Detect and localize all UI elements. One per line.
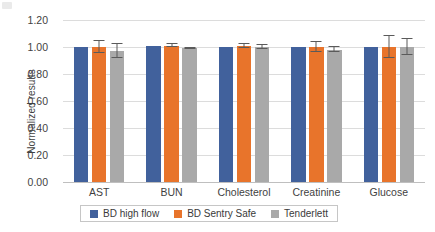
legend-label: BD Sentry Safe [187,208,256,219]
y-axis-tick-label: 0.00 [0,176,48,188]
y-axis-tick-label: 1.00 [0,41,48,53]
bar[interactable] [382,20,397,182]
legend-label: Tenderlett [284,208,328,219]
x-axis-tick-label: Glucose [353,186,425,198]
error-bar-cap [166,43,177,44]
bar-rect [219,47,234,182]
error-bar-cap [166,46,177,47]
error-bar-cap [238,47,249,48]
bar-group: Glucose [353,20,425,182]
bar[interactable] [309,20,324,182]
error-bar-cap [112,43,123,44]
error-bar-cap [329,46,340,47]
x-axis-tick-label: AST [63,186,135,198]
error-bar-cap [94,52,105,53]
error-bar [388,36,389,59]
y-axis-title: Normalized results [26,32,37,192]
y-axis-tick-label: 0.80 [0,68,48,80]
error-bar-cap [256,44,267,45]
error-bar-cap [256,48,267,49]
legend-swatch-icon [90,210,98,218]
bar[interactable] [255,20,270,182]
bar-rect [164,46,179,182]
gridline [63,182,425,183]
legend-item[interactable]: BD high flow [90,208,159,219]
bar-rect [92,47,107,182]
bar-chart: Normalized results 0.000.200.400.600.801… [0,0,435,232]
bar-group: Creatinine [280,20,352,182]
bar-group: AST [63,20,135,182]
legend-swatch-icon [174,210,182,218]
bar[interactable] [291,20,306,182]
bar[interactable] [237,20,252,182]
scan-artifact [2,2,12,9]
bar[interactable] [92,20,107,182]
error-bar-cap [383,35,394,36]
bar-rect [255,47,270,182]
error-bar-cap [238,43,249,44]
bar[interactable] [400,20,415,182]
x-axis-tick-label: BUN [135,186,207,198]
y-axis-tick-label: 0.20 [0,149,48,161]
bar-group-bars [63,20,135,182]
bar-rect [364,47,379,182]
bar[interactable] [110,20,125,182]
x-axis-tick-label: Creatinine [280,186,352,198]
y-axis-tick-label: 0.40 [0,122,48,134]
bar-group-bars [208,20,280,182]
error-bar-cap [311,51,322,52]
bar-rect [400,47,415,182]
bar[interactable] [146,20,161,182]
plot-area: 0.000.200.400.600.801.001.20ASTBUNCholes… [63,20,425,182]
error-bar-cap [311,41,322,42]
bar-rect [110,51,125,182]
legend-item[interactable]: Tenderlett [271,208,328,219]
bar-rect [327,50,342,182]
bar-rect [146,46,161,182]
bar[interactable] [219,20,234,182]
bar-rect [309,47,324,182]
legend-item[interactable]: BD Sentry Safe [174,208,256,219]
legend-label: BD high flow [103,208,159,219]
error-bar-cap [94,40,105,41]
error-bar-cap [329,51,340,52]
error-bar [117,44,118,59]
bar-group-bars [353,20,425,182]
error-bar-cap [112,57,123,58]
bar-rect [237,46,252,182]
bar[interactable] [74,20,89,182]
bar-rect [182,48,197,182]
legend-swatch-icon [271,210,279,218]
x-axis-tick-label: Cholesterol [208,186,280,198]
bar[interactable] [182,20,197,182]
bar-group: Cholesterol [208,20,280,182]
error-bar-cap [383,57,394,58]
bar[interactable] [327,20,342,182]
error-bar-cap [184,48,195,49]
bar-group-bars [135,20,207,182]
bar-rect [291,47,306,182]
bar-group: BUN [135,20,207,182]
y-axis-tick-label: 1.20 [0,14,48,26]
error-bar-cap [401,38,412,39]
bar-rect [74,47,89,182]
bar-rect [382,47,397,182]
bar-group-bars [280,20,352,182]
bar[interactable] [164,20,179,182]
error-bar-cap [401,54,412,55]
y-axis-tick-label: 0.60 [0,95,48,107]
chart-legend: BD high flowBD Sentry SafeTenderlett [80,205,338,222]
bar[interactable] [364,20,379,182]
error-bar [406,39,407,55]
